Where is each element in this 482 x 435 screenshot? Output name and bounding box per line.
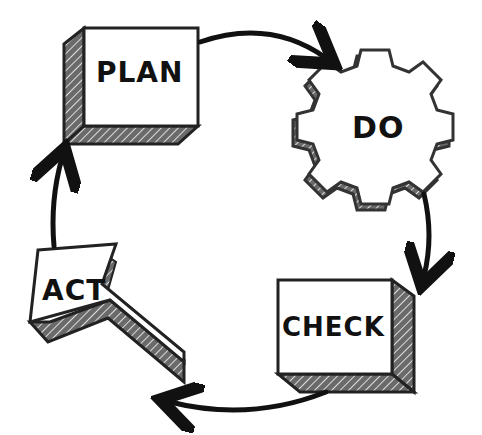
pdca-diagram: [0, 0, 482, 435]
arrow-plan-to-do: [200, 33, 326, 58]
check-label: CHECK: [282, 312, 385, 342]
do-label: DO: [352, 110, 404, 145]
arrow-do-to-check: [424, 194, 429, 276]
act-arrow: [30, 244, 184, 382]
plan-label: PLAN: [96, 56, 183, 89]
arrow-act-to-plan: [53, 158, 62, 246]
act-label: ACT: [42, 274, 106, 307]
arrow-check-to-act: [170, 392, 326, 410]
